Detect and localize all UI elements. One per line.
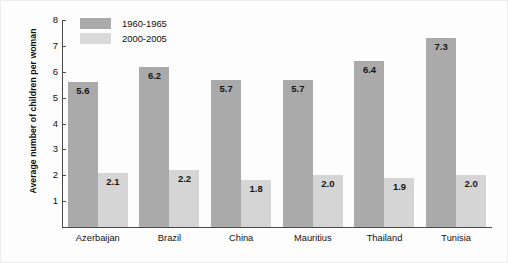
bar-group: 5.72.0Mauritius: [277, 20, 349, 227]
y-axis-tick-label: 8: [53, 14, 58, 25]
y-axis-tick-label: 4: [53, 118, 58, 129]
bar-value-label: 1.8: [241, 183, 271, 194]
bar: 7.3: [426, 38, 456, 227]
x-axis-category-label: Mauritius: [277, 233, 349, 243]
bar: 2.0: [456, 175, 486, 227]
bar-value-label: 5.6: [68, 85, 98, 96]
x-axis-category-label: China: [205, 233, 277, 243]
bar: 5.7: [211, 80, 241, 227]
bar-group: 7.32.0Tunisia: [420, 20, 492, 227]
legend-label: 1960-1965: [122, 18, 167, 29]
chart-legend: 1960-19652000-2005: [80, 16, 167, 46]
bar-value-label: 7.3: [426, 41, 456, 52]
legend-swatch: [80, 18, 111, 29]
bar: 6.4: [354, 61, 384, 227]
bar-value-label: 2.0: [456, 178, 486, 189]
legend-item: 2000-2005: [80, 31, 167, 46]
bar: 5.7: [283, 80, 313, 227]
bar-value-label: 6.4: [354, 64, 384, 75]
bar-group: 5.62.1Azerbaijan: [62, 20, 134, 227]
y-axis-title: Average number of children per woman: [28, 11, 38, 211]
bar-value-label: 2.2: [169, 173, 199, 184]
bar: 2.2: [169, 170, 199, 227]
bar-group: 6.41.9Thailand: [349, 20, 421, 227]
bar-group: 5.71.8China: [205, 20, 277, 227]
y-axis-tick-label: 2: [53, 169, 58, 180]
bar-value-label: 2.0: [313, 178, 343, 189]
bar: 2.1: [98, 173, 128, 227]
plot-area: 12345678 5.62.1Azerbaijan6.22.2Brazil5.7…: [62, 20, 492, 228]
y-axis-tick-label: 3: [53, 143, 58, 154]
x-axis-category-label: Azerbaijan: [62, 233, 134, 243]
y-axis-tick-label: 6: [53, 66, 58, 77]
x-axis-category-label: Brazil: [134, 233, 206, 243]
y-axis-tick-label: 1: [53, 195, 58, 206]
legend-label: 2000-2005: [122, 33, 167, 44]
y-axis-tick-label: 7: [53, 40, 58, 51]
bar: 1.9: [384, 178, 414, 227]
legend-item: 1960-1965: [80, 16, 167, 31]
bar-value-label: 5.7: [211, 83, 241, 94]
legend-swatch: [80, 33, 111, 44]
bar: 5.6: [68, 82, 98, 227]
bar-value-label: 6.2: [139, 70, 169, 81]
bar-value-label: 1.9: [384, 181, 414, 192]
bar: 6.2: [139, 67, 169, 227]
y-axis-tick-label: 5: [53, 92, 58, 103]
bar: 2.0: [313, 175, 343, 227]
x-axis-category-label: Thailand: [349, 233, 421, 243]
bar-group: 6.22.2Brazil: [134, 20, 206, 227]
x-axis-category-label: Tunisia: [420, 233, 492, 243]
bar-value-label: 2.1: [98, 176, 128, 187]
x-axis-line: [62, 227, 492, 228]
fertility-bar-chart: Average number of children per woman 123…: [0, 0, 508, 263]
bar: 1.8: [241, 180, 271, 227]
bar-value-label: 5.7: [283, 83, 313, 94]
